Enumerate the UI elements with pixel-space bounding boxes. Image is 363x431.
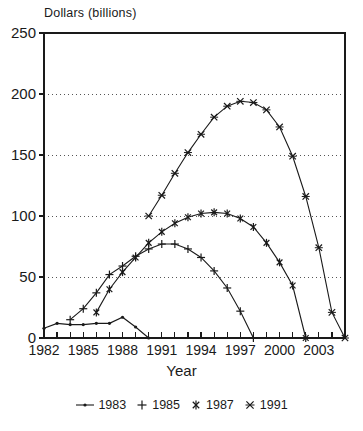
data-point [146,239,152,247]
data-point [42,327,45,330]
data-point [93,308,99,316]
data-point [210,114,218,120]
data-point [171,170,179,176]
data-point [223,103,231,109]
data-point [147,336,150,339]
x-tick-label: 1988 [107,342,138,358]
y-tick-label: 100 [11,207,36,224]
y-tick-label: 200 [11,85,36,102]
data-point [108,322,111,325]
plot-area: 0501001502002501982198519881991199419972… [0,0,363,360]
data-point [264,239,270,247]
x-tick-label: 1991 [146,342,177,358]
data-point [277,258,283,266]
y-tick-label: 150 [11,146,36,163]
data-point [236,98,244,104]
x-axis-title: Year [0,362,363,379]
data-point [184,149,192,155]
x-tick-label: 1982 [28,342,59,358]
data-point [251,223,257,231]
data-point [145,213,153,219]
legend-marker-asterisk-icon [189,398,203,412]
data-point [237,214,243,222]
legend-label: 1983 [98,398,126,412]
legend-label: 1985 [152,398,180,412]
legend-label: 1991 [260,398,288,412]
data-point [276,124,284,130]
legend-marker-plus-icon [135,398,149,412]
series-line [96,212,305,338]
data-point [302,193,310,199]
y-tick-label: 50 [19,268,36,285]
y-tick-label: 250 [11,24,36,41]
plot-frame [44,33,345,338]
legend-item-1987[interactable]: 1987 [189,398,234,412]
data-point [289,153,297,159]
data-point [121,316,124,319]
data-point [172,219,178,227]
data-point [120,268,126,276]
data-point [236,307,244,315]
x-tick-label: 1994 [185,342,216,358]
data-point [107,285,113,293]
data-point [262,107,270,113]
data-point [158,192,166,198]
data-point [197,131,205,137]
chart-figure: Dollars (billions) 050100150200250198219… [0,0,363,431]
legend-marker-x-asterisk-icon [243,398,257,412]
series-1985 [66,240,257,342]
chart-legend: 1983198519871991 [0,398,363,412]
data-point [249,99,257,105]
x-tick-label: 1997 [225,342,256,358]
data-point [82,323,85,326]
data-point [184,245,192,253]
data-point [158,240,166,248]
x-tick-label: 1985 [68,342,99,358]
x-tick-label: 2000 [264,342,295,358]
legend-label: 1987 [206,398,234,412]
legend-item-1985[interactable]: 1985 [135,398,180,412]
series-line [149,101,345,338]
legend-item-1991[interactable]: 1991 [243,398,288,412]
data-point [95,322,98,325]
x-tick-label: 2003 [303,342,334,358]
data-point [290,282,296,290]
data-point [55,322,58,325]
legend-item-1983[interactable]: 1983 [75,398,126,412]
data-point [134,325,137,328]
data-point [171,240,179,248]
data-point [159,228,165,236]
legend-marker-dot-icon [75,398,95,412]
series-1987 [93,208,308,342]
data-point [249,334,257,342]
